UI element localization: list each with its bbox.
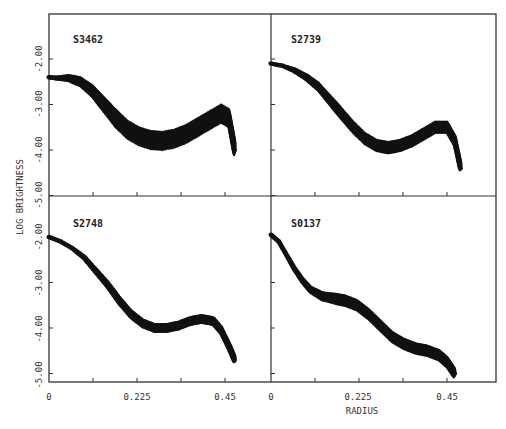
y-tick-label: -2.00 bbox=[34, 45, 44, 72]
y-tick-label: -4.00 bbox=[34, 315, 44, 342]
panel-S2748: S2748 bbox=[46, 218, 237, 382]
panel-S0137: S0137 bbox=[268, 218, 457, 382]
x-tick-label: 0.225 bbox=[123, 392, 150, 402]
x-axis-title: RADIUS bbox=[346, 406, 379, 416]
y-tick-label: -5.00 bbox=[34, 181, 44, 208]
panel-S3462: S3462 bbox=[46, 34, 237, 196]
figure-canvas: S3462S2739S2748S0137-2.00-3.00-4.00-5.00… bbox=[0, 0, 506, 429]
panel-title: S3462 bbox=[73, 34, 103, 45]
panel-S2739: S2739 bbox=[268, 34, 462, 196]
x-tick-label: 0 bbox=[46, 392, 51, 402]
y-tick-label: -4.00 bbox=[34, 136, 44, 163]
y-tick-label: -5.00 bbox=[34, 361, 44, 388]
y-tick-label: -3.00 bbox=[34, 269, 44, 296]
x-tick-label: 0 bbox=[268, 392, 273, 402]
y-axis-title: LOG BRIGHTNESS bbox=[15, 159, 25, 235]
y-tick-label: -3.00 bbox=[34, 90, 44, 117]
plot-frame bbox=[49, 14, 496, 382]
y-tick-label: -2.00 bbox=[34, 223, 44, 250]
x-tick-label: 0.225 bbox=[344, 392, 371, 402]
panel-title: S0137 bbox=[291, 218, 321, 229]
panel-title: S2748 bbox=[73, 218, 103, 229]
panel-title: S2739 bbox=[291, 34, 321, 45]
x-tick-label: 0.45 bbox=[436, 392, 458, 402]
x-tick-label: 0.45 bbox=[214, 392, 236, 402]
